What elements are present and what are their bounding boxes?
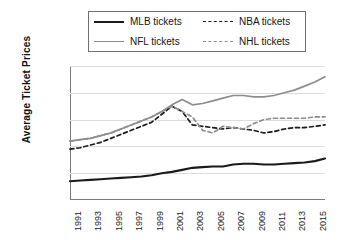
legend-label-nfl: NFL tickets bbox=[130, 37, 180, 47]
series-lines bbox=[70, 66, 325, 200]
x-tick-label: 2015 bbox=[319, 211, 328, 231]
series-line-nfl bbox=[70, 77, 325, 141]
x-tick-label: 2003 bbox=[196, 211, 205, 231]
plot-area: $100$80$60$40$20$0 199119931995199719992… bbox=[70, 66, 325, 200]
legend-label-nba: NBA tickets bbox=[239, 17, 290, 27]
legend-label-nhl: NHL tickets bbox=[239, 37, 290, 47]
x-tick-label: 1991 bbox=[74, 211, 83, 231]
series-line-nba bbox=[70, 106, 325, 149]
legend-item-nfl[interactable]: NFL tickets bbox=[89, 37, 198, 47]
legend-item-nba[interactable]: NBA tickets bbox=[198, 17, 307, 27]
x-tick-label: 2011 bbox=[278, 212, 287, 231]
x-tick-label: 1999 bbox=[156, 211, 165, 231]
x-tick-label: 2007 bbox=[237, 211, 246, 231]
x-tick-label: 2013 bbox=[298, 211, 307, 231]
y-axis-title: Average Ticket Prices bbox=[21, 20, 32, 160]
x-tick-label: 1995 bbox=[115, 211, 124, 231]
series-line-mlb bbox=[70, 158, 325, 181]
x-tick-label: 1993 bbox=[94, 211, 103, 231]
x-tick-label: 1997 bbox=[135, 211, 144, 231]
x-tick-label: 2005 bbox=[217, 211, 226, 231]
x-tick-label: 2009 bbox=[258, 211, 267, 231]
legend-label-mlb: MLB tickets bbox=[130, 17, 182, 27]
chart-legend: MLB tickets NBA tickets NFL tickets NHL … bbox=[88, 11, 306, 52]
ticket-price-line-chart: MLB tickets NBA tickets NFL tickets NHL … bbox=[0, 0, 341, 240]
legend-item-mlb[interactable]: MLB tickets bbox=[89, 17, 198, 27]
series-line-nhl bbox=[70, 106, 325, 141]
x-tick-label: 2001 bbox=[176, 211, 185, 231]
legend-item-nhl[interactable]: NHL tickets bbox=[198, 37, 307, 47]
